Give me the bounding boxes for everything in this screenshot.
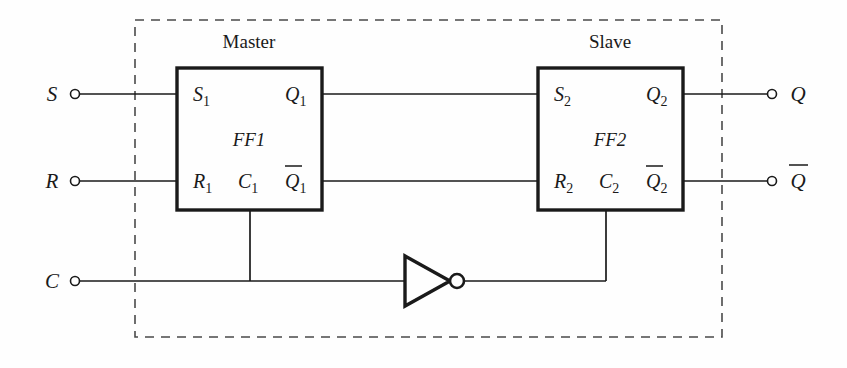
input-terminal-r[interactable] [71,177,80,186]
inverter-triangle [405,256,450,306]
input-terminal-c[interactable] [71,277,80,286]
input-label-s: S [47,82,58,106]
output-terminal-qbar[interactable] [768,177,777,186]
circuit-diagram-canvas: S R C Q Q Master Slave FF1 FF2 S1 R1 C1 … [0,0,847,368]
master-inner-label: FF1 [232,129,266,150]
inverter-bubble-icon [450,274,464,288]
output-label-qbar: Q [790,169,805,193]
slave-inner-label: FF2 [593,129,627,150]
output-label-q: Q [790,82,805,106]
slave-block-title: Slave [589,31,631,52]
clock-inverter-gate[interactable] [405,256,464,306]
input-label-c: C [45,269,60,293]
master-block-title: Master [223,31,276,52]
output-terminal-q[interactable] [768,90,777,99]
input-label-r: R [45,169,59,193]
input-terminal-s[interactable] [71,90,80,99]
